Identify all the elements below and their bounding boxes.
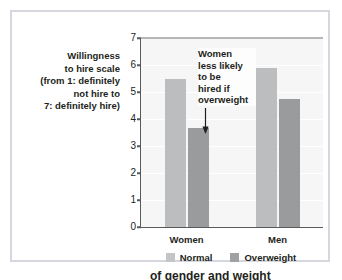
y-axis-label: Willingness to hire scale (from 1: defin…: [24, 50, 120, 113]
y-axis-tick-label: 2: [130, 168, 136, 178]
legend-swatch-overweight: [230, 253, 239, 262]
y-axis-tick-mark: [137, 37, 141, 39]
figure-frame: Willingness to hire scale (from 1: defin…: [10, 10, 330, 262]
y-axis-label-line: not hire to: [24, 88, 120, 101]
y-axis-tick-mark: [137, 118, 141, 120]
bar-women-overweight: [188, 128, 209, 227]
bar-men-normal: [256, 68, 277, 227]
figure-container: Willingness to hire scale (from 1: defin…: [0, 0, 342, 280]
legend-item-overweight[interactable]: Overweight: [230, 253, 296, 263]
y-axis-tick-mark: [137, 172, 141, 174]
annotation-callout: Women less likely to be hired if overwei…: [198, 48, 256, 106]
y-axis-label-line: to hire scale: [24, 63, 120, 76]
x-axis-tick-label: Women: [169, 234, 203, 245]
annotation-line: overweight: [198, 94, 256, 106]
plot-top-rule: [141, 37, 323, 39]
y-axis-label-line: Willingness: [24, 50, 120, 63]
annotation-line: less likely: [198, 60, 256, 72]
legend-item-normal[interactable]: Normal: [166, 253, 213, 263]
y-axis-tick-label: 7: [130, 33, 136, 43]
y-axis-tick-label: 0: [130, 222, 136, 232]
y-axis-tick-label: 1: [130, 195, 136, 205]
down-arrow-icon: [201, 108, 210, 134]
y-axis-tick-mark: [137, 64, 141, 66]
legend-label-normal: Normal: [180, 253, 213, 263]
annotation-line: Women: [198, 48, 256, 60]
y-axis-tick-label: 6: [130, 60, 136, 70]
legend-swatch-normal: [166, 253, 175, 262]
y-axis-tick-mark: [137, 145, 141, 147]
annotation-line: to be: [198, 71, 256, 83]
y-axis-label-line: (from 1: definitely: [24, 75, 120, 88]
clipped-caption: of gender and weight: [150, 270, 342, 280]
y-axis-tick-mark: [137, 91, 141, 93]
annotation-line: hired if: [198, 83, 256, 95]
legend: Normal Overweight: [140, 253, 322, 263]
bar-women-normal: [165, 79, 186, 228]
x-axis-tick-label: Men: [268, 234, 287, 245]
legend-label-overweight: Overweight: [244, 253, 296, 263]
y-axis-tick-label: 4: [130, 114, 136, 124]
y-axis-tick-label: 3: [130, 141, 136, 151]
y-axis-tick-mark: [137, 199, 141, 201]
bar-men-overweight: [279, 99, 300, 227]
y-axis-tick-label: 5: [130, 87, 136, 97]
y-axis-tick-mark: [137, 226, 141, 228]
y-axis-label-line: 7: definitely hire): [24, 100, 120, 113]
